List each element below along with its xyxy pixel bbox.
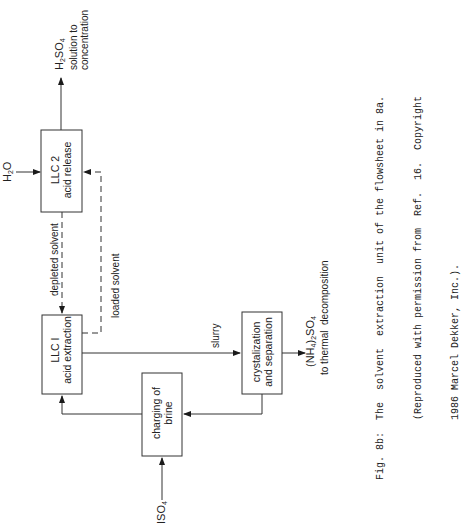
h2so4-formula: H2SO4 [54,10,68,70]
depleted-solvent-label: depleted solvent [49,223,60,296]
loaded-solvent-label: loaded solvent [110,254,121,319]
llc1-label: LLC I acid extraction [49,315,73,385]
nh4so4-formula: (NH4)2SO4 [305,260,319,375]
cryst-label: crystalization and separation [250,316,274,388]
figure-caption: Fig. 8b: The solvent extraction unit of … [350,96,465,480]
charging-label: charging of brine [150,380,174,446]
input-label: ISO4 [156,501,170,524]
h2o-label: H2O [2,162,16,182]
slurry-label: slurry [210,324,221,348]
nh4so4-label: (NH4)2SO4 to thermal decomposition [305,260,330,375]
llc2-label: LLC 2 acid release [49,140,73,200]
h2so4-label: H2SO4 solution to concentration [54,10,90,70]
